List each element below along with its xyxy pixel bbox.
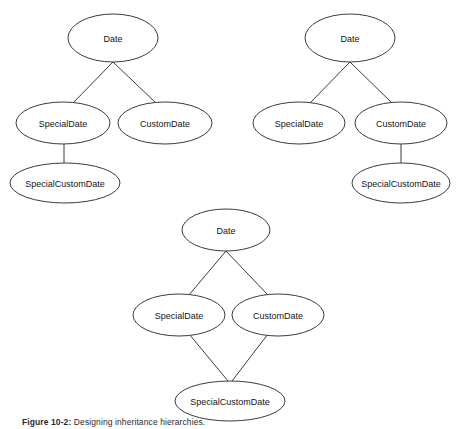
node-d2-custom[interactable]: CustomDate	[355, 102, 447, 144]
edge-d1-date-to-d1-custom	[113, 62, 156, 103]
node-d1-date[interactable]: Date	[68, 14, 158, 62]
node-label-d1-special: SpecialDate	[39, 119, 88, 129]
node-label-d2-special: SpecialDate	[275, 119, 324, 129]
node-d2-special[interactable]: SpecialDate	[253, 102, 345, 144]
node-d3-special[interactable]: SpecialDate	[133, 294, 225, 336]
node-d1-special[interactable]: SpecialDate	[16, 102, 110, 144]
node-d3-date[interactable]: Date	[182, 209, 270, 251]
node-d1-scd[interactable]: SpecialCustomDate	[10, 163, 120, 203]
edge-d2-date-to-d2-custom	[350, 62, 392, 103]
node-d2-scd[interactable]: SpecialCustomDate	[352, 163, 450, 203]
node-label-d3-special: SpecialDate	[155, 311, 204, 321]
node-label-d1-custom: CustomDate	[140, 119, 190, 129]
inheritance-diagram-canvas: DateSpecialDateCustomDateSpecialCustomDa…	[0, 0, 456, 429]
node-label-d3-date: Date	[216, 226, 235, 236]
figure-container: DateSpecialDateCustomDateSpecialCustomDa…	[0, 0, 456, 429]
edge-d3-date-to-d3-custom	[226, 251, 268, 295]
figure-caption-prefix: Figure 10-2:	[22, 417, 71, 427]
node-label-d1-date: Date	[103, 34, 122, 44]
node-label-d2-scd: SpecialCustomDate	[361, 179, 441, 189]
figure-caption-body: Designing inheritance hierarchies.	[74, 417, 205, 427]
single-inheritance-via-customdate-nodes: DateSpecialDateCustomDateSpecialCustomDa…	[253, 14, 450, 203]
edge-d3-date-to-d3-special	[189, 251, 226, 295]
node-d2-date[interactable]: Date	[305, 14, 395, 62]
node-label-d3-scd: SpecialCustomDate	[190, 397, 270, 407]
figure-caption: Figure 10-2: Designing inheritance hiera…	[22, 417, 205, 427]
node-d3-custom[interactable]: CustomDate	[232, 294, 324, 336]
edge-d1-date-to-d1-special	[73, 62, 113, 103]
node-label-d1-scd: SpecialCustomDate	[25, 179, 105, 189]
node-label-d2-custom: CustomDate	[376, 119, 426, 129]
node-d1-custom[interactable]: CustomDate	[118, 102, 212, 144]
node-label-d3-custom: CustomDate	[253, 311, 303, 321]
node-d3-scd[interactable]: SpecialCustomDate	[175, 381, 285, 421]
nodes-layer: DateSpecialDateCustomDateSpecialCustomDa…	[10, 14, 450, 421]
single-inheritance-via-specialdate-nodes: DateSpecialDateCustomDateSpecialCustomDa…	[10, 14, 212, 203]
edge-d2-date-to-d2-special	[310, 62, 350, 103]
edge-d3-custom-to-d3-scd	[232, 334, 268, 381]
multiple-inheritance-diamond-nodes: DateSpecialDateCustomDateSpecialCustomDa…	[133, 209, 324, 421]
node-label-d2-date: Date	[340, 34, 359, 44]
edge-d3-special-to-d3-scd	[189, 334, 228, 381]
